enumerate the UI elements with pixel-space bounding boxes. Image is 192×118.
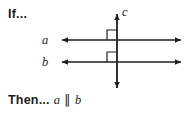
parallel-symbol: ∥ bbox=[64, 94, 71, 107]
line-a-label: a bbox=[42, 33, 48, 47]
conclusion-line-b: b bbox=[75, 94, 81, 107]
conclusion-row: Then... a ∥ b bbox=[8, 94, 81, 107]
then-label: Then... bbox=[8, 94, 50, 107]
line-b-label: b bbox=[42, 55, 48, 69]
geometry-figure-panel: If... a b c Then... a bbox=[0, 0, 192, 118]
right-angle-mark-b-c bbox=[107, 52, 117, 62]
right-angle-mark-a-c bbox=[107, 30, 117, 40]
conclusion-line-a: a bbox=[54, 94, 60, 107]
line-c-label: c bbox=[122, 5, 128, 19]
